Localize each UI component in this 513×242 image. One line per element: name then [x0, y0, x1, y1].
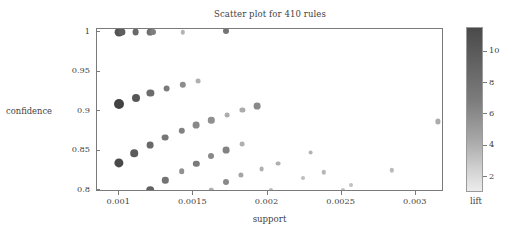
scatter-point — [225, 113, 230, 118]
scatter-point — [254, 103, 261, 110]
y-tick-label: 0.9 — [44, 105, 90, 115]
x-tick-label: 0.0025 — [311, 196, 371, 206]
scatter-point — [132, 29, 139, 36]
x-axis-label: support — [96, 214, 443, 224]
scatter-point — [322, 170, 326, 174]
x-tick-mark — [118, 191, 119, 195]
scatter-point — [223, 147, 230, 154]
scatter-point — [223, 179, 229, 185]
scatter-point — [163, 85, 170, 92]
scatter-point — [276, 161, 281, 166]
scatter-point — [114, 99, 124, 109]
scatter-point — [193, 121, 200, 128]
scatter-point — [162, 177, 168, 183]
scatter-point — [390, 168, 394, 172]
scatter-point — [208, 117, 214, 123]
scatter-point — [240, 108, 245, 113]
x-tick-label: 0.001 — [88, 196, 148, 206]
y-tick-mark — [96, 150, 100, 151]
scatter-point — [147, 142, 154, 149]
page-title: Scatter plot for 410 rules — [96, 9, 444, 19]
y-tick-mark — [96, 110, 100, 111]
colorbar-tick-mark — [483, 176, 487, 177]
y-tick-label: 0.95 — [44, 65, 90, 75]
scatter-point — [179, 169, 185, 175]
scatter-point — [195, 79, 200, 84]
y-tick-label: 1 — [44, 26, 90, 36]
colorbar-tick-label: 4 — [489, 139, 511, 149]
scatter-point — [162, 134, 169, 141]
scatter-points-layer — [97, 29, 442, 190]
colorbar — [466, 27, 483, 192]
y-tick-mark — [96, 31, 100, 32]
scatter-point — [209, 188, 213, 190]
scatter-point — [308, 150, 313, 155]
scatter-point — [269, 188, 273, 190]
scatter-point — [147, 89, 154, 96]
x-tick-label: 0.003 — [385, 196, 445, 206]
scatter-point — [147, 186, 155, 190]
scatter-point — [178, 128, 184, 134]
x-tick-mark — [341, 191, 342, 195]
scatter-point — [341, 188, 345, 190]
x-tick-mark — [267, 191, 268, 195]
scatter-point — [130, 150, 138, 158]
colorbar-gradient — [466, 27, 483, 192]
x-tick-mark — [192, 191, 193, 195]
scatter-point — [181, 30, 185, 34]
colorbar-tick-mark — [483, 82, 487, 83]
x-tick-label: 0.002 — [237, 196, 297, 206]
colorbar-tick-mark — [483, 51, 487, 52]
scatter-point — [259, 166, 264, 171]
scatter-point — [301, 176, 305, 180]
scatter-point — [115, 159, 124, 168]
colorbar-label: lift — [464, 196, 488, 206]
scatter-point — [150, 29, 156, 35]
scatter-point — [349, 183, 353, 187]
scatter-point — [435, 119, 440, 124]
colorbar-tick-mark — [483, 145, 487, 146]
scatter-plot-figure: Scatter plot for 410 rules confidence 0.… — [0, 0, 513, 242]
x-tick-label: 0.0015 — [162, 196, 222, 206]
scatter-point — [238, 172, 243, 177]
x-tick-mark — [415, 191, 416, 195]
scatter-point — [132, 94, 140, 102]
colorbar-tick-label: 6 — [489, 108, 511, 118]
scatter-point — [180, 82, 186, 88]
colorbar-tick-label: 8 — [489, 77, 511, 87]
colorbar-tick-mark — [483, 113, 487, 114]
scatter-point — [193, 160, 199, 166]
y-tick-mark — [96, 71, 100, 72]
scatter-point — [223, 29, 229, 34]
y-tick-label: 0.85 — [44, 144, 90, 154]
scatter-point — [119, 29, 126, 36]
colorbar-tick-label: 2 — [489, 171, 511, 181]
y-tick-label: 0.8 — [44, 184, 90, 194]
scatter-point — [208, 153, 214, 159]
colorbar-tick-label: 10 — [489, 45, 511, 55]
plot-area — [96, 28, 443, 191]
y-tick-mark — [96, 189, 100, 190]
scatter-point — [240, 142, 245, 147]
